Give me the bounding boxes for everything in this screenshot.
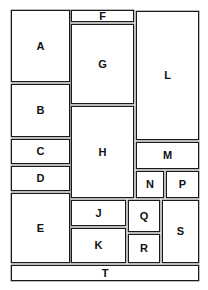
block-f: F [71, 10, 134, 22]
block-e: E [11, 193, 70, 263]
block-c: C [11, 139, 70, 164]
block-r: R [128, 234, 160, 263]
block-label: H [99, 147, 107, 158]
block-label: B [37, 105, 45, 116]
block-label: G [98, 59, 107, 70]
block-q: Q [128, 200, 160, 232]
block-label: C [37, 146, 45, 157]
block-label: J [95, 208, 101, 219]
block-label: Q [140, 211, 149, 222]
block-label: P [179, 179, 186, 190]
block-h: H [71, 106, 134, 198]
block-a: A [11, 10, 70, 82]
block-n: N [136, 171, 164, 198]
block-label: M [163, 150, 172, 161]
block-label: K [95, 240, 103, 251]
block-label: E [37, 223, 44, 234]
block-t: T [11, 265, 199, 281]
block-d: D [11, 166, 70, 191]
block-label: L [164, 70, 171, 81]
block-label: T [102, 268, 109, 279]
block-label: F [99, 11, 106, 22]
block-label: A [37, 41, 45, 52]
block-label: N [146, 179, 154, 190]
block-label: R [140, 243, 148, 254]
block-p: P [166, 171, 199, 198]
block-diagram: A B C D E F G H J K L M N P Q R S [0, 0, 208, 290]
block-k: K [71, 228, 126, 263]
block-label: S [177, 226, 184, 237]
block-label: D [37, 173, 45, 184]
block-g: G [71, 24, 134, 104]
block-s: S [162, 200, 199, 263]
block-l: L [136, 11, 199, 140]
block-j: J [71, 200, 126, 226]
block-m: M [136, 142, 199, 169]
block-b: B [11, 84, 70, 137]
